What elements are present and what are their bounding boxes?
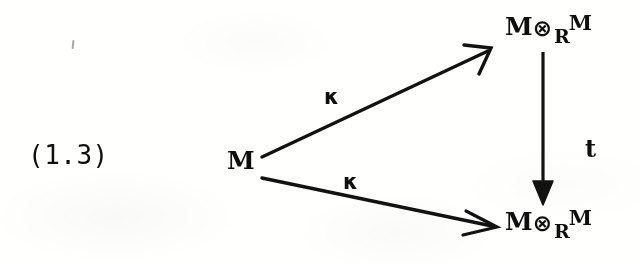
arrow-vertical-head bbox=[533, 181, 553, 205]
arrow-upper-kappa bbox=[262, 45, 491, 157]
arrow-lower-shaft bbox=[262, 178, 492, 226]
arrow-lower-kappa bbox=[262, 178, 497, 235]
diagram-canvas: (1.3) M M⊗RM M⊗RM κ κ t bbox=[0, 0, 641, 264]
arrows-layer bbox=[0, 0, 641, 264]
arrow-upper-shaft bbox=[262, 51, 488, 157]
arrow-vertical-t bbox=[533, 52, 553, 205]
